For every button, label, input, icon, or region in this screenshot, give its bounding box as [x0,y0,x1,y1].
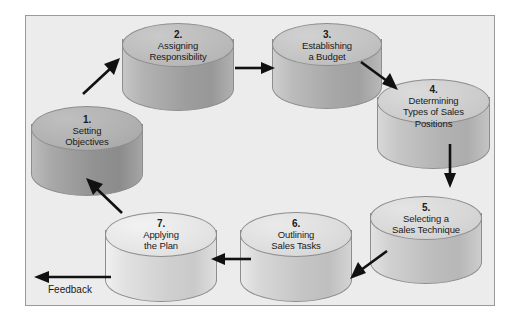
step-line: Applying [105,229,217,240]
connector-arrow-5-to-6 [347,248,389,282]
diagram-canvas: 2. Assigning Responsibility 3. Establish… [0,0,517,321]
connector-arrow-6-to-7 [210,251,251,267]
process-step-5-label: 5. Selecting a Sales Technique [370,202,482,236]
connector-arrow-1-to-2 [80,56,125,98]
process-step-3-label: 3. Establishing a Budget [272,29,382,63]
step-line: Outlining [240,229,352,240]
connector-arrow-2-to-3 [235,60,276,76]
process-step-6: 6. Outlining Sales Tasks [240,212,352,302]
step-line: Setting [31,125,143,136]
step-number: 3. [272,29,382,40]
process-step-2-label: 2. Assigning Responsibility [122,29,234,63]
step-line: Assigning [122,40,234,51]
process-step-7-label: 7. Applying the Plan [105,218,217,252]
diagram-frame: 2. Assigning Responsibility 3. Establish… [25,15,495,306]
step-line: Determining [377,95,490,106]
step-line: the Plan [105,240,217,251]
step-line: Responsibility [122,51,234,62]
step-line: Sales Tasks [240,240,352,251]
step-line: Establishing [272,40,382,51]
feedback-label: Feedback [48,284,92,295]
process-step-2: 2. Assigning Responsibility [122,23,234,111]
connector-arrow-7-to-1 [84,176,126,216]
step-line: Selecting a [370,213,482,224]
process-step-1-label: 1. Setting Objectives [31,114,143,148]
step-line: Positions [377,118,490,129]
step-number: 2. [122,29,234,40]
step-line: Types of Sales [377,106,490,117]
step-number: 6. [240,218,352,229]
process-step-7: 7. Applying the Plan [105,212,217,302]
connector-arrow-4-to-5 [442,144,458,189]
step-number: 1. [31,114,143,125]
step-number: 7. [105,218,217,229]
step-line: Objectives [31,136,143,147]
feedback-arrow [33,269,111,285]
connector-arrow-3-to-4 [359,59,401,93]
step-line: Sales Technique [370,224,482,235]
process-step-6-label: 6. Outlining Sales Tasks [240,218,352,252]
step-number: 5. [370,202,482,213]
